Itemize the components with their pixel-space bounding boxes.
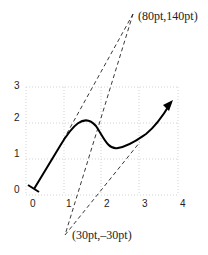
control-lines [60, 14, 140, 235]
upper-control-label: (80pt,140pt) [138, 9, 198, 23]
y-axis-ticks: 3 2 1 0 [14, 80, 20, 195]
y-tick-2: 2 [14, 112, 20, 123]
y-tick-0: 0 [14, 184, 20, 195]
x-tick-4: 4 [180, 198, 186, 209]
grid [26, 87, 178, 195]
x-tick-3: 3 [142, 198, 148, 209]
x-tick-0: 0 [30, 198, 36, 209]
arrowhead-icon [163, 100, 173, 111]
bezier-diagram: 3 2 1 0 0 1 2 3 4 (80pt,140pt) (30pt,–30… [0, 0, 208, 255]
tangent-line-end [65, 142, 140, 235]
y-tick-1: 1 [14, 148, 20, 159]
x-tick-2: 2 [104, 198, 110, 209]
bar-tail-icon [28, 185, 39, 192]
curve [28, 100, 173, 192]
x-axis-ticks: 0 1 2 3 4 [30, 198, 186, 209]
x-tick-1: 1 [66, 198, 72, 209]
lower-control-label: (30pt,–30pt) [72, 228, 132, 242]
bezier-path [34, 104, 170, 189]
y-tick-3: 3 [14, 80, 20, 91]
